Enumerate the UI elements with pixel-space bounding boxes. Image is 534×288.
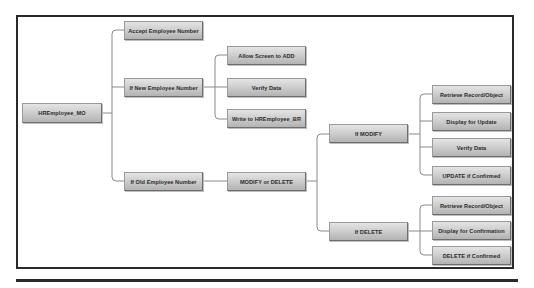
connector-root-spine: [112, 30, 124, 181]
node-hremployee-mo[interactable]: HREmployee_MO: [22, 103, 102, 123]
node-modify-retrieve-record[interactable]: Retrieve Record/Object: [432, 85, 511, 104]
node-if-delete[interactable]: If DELETE: [329, 222, 408, 241]
node-write-to-hremployee-br[interactable]: Write to HREmployee_BR: [227, 109, 306, 128]
connector-delete-spine: [420, 205, 432, 255]
node-if-modify[interactable]: If MODIFY: [329, 124, 408, 143]
node-delete-if-confirmed[interactable]: DELETE if Confirmed: [432, 246, 511, 265]
node-delete-retrieve-record[interactable]: Retrieve Record/Object: [432, 196, 511, 215]
node-if-old-employee-number[interactable]: If Old Employee Number: [124, 172, 203, 191]
node-display-for-update[interactable]: Display for Update: [432, 112, 511, 131]
node-accept-employee-number[interactable]: Accept Employee Number: [124, 21, 203, 40]
node-if-new-employee-number[interactable]: If New Employee Number: [124, 78, 203, 97]
node-verify-data-new[interactable]: Verify Data: [227, 78, 306, 97]
node-modify-or-delete[interactable]: MODIFY or DELETE: [227, 172, 306, 191]
node-verify-data-modify[interactable]: Verify Data: [432, 138, 511, 157]
node-update-if-confirmed[interactable]: UPDATE if Confirmed: [432, 166, 511, 185]
node-display-for-confirmation[interactable]: Display for Confirmation: [432, 221, 511, 240]
connector-choice-spine: [317, 134, 329, 231]
node-allow-screen-to-add[interactable]: Allow Screen to ADD: [227, 46, 306, 65]
connector-modify-spine: [420, 94, 432, 175]
page-separator-rule: [16, 279, 518, 282]
